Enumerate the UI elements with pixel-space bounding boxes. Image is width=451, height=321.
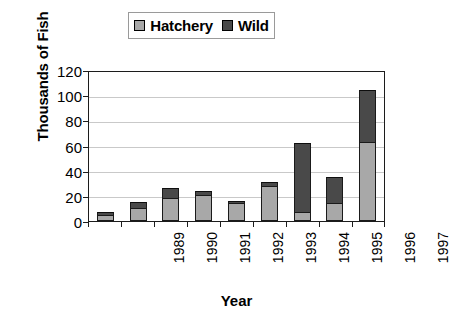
legend-swatch-hatchery: [134, 20, 145, 31]
x-tick-mark: [187, 222, 188, 227]
y-axis-ticks: 120 100 80 60 40 20 0: [0, 0, 82, 321]
bar-segment-wild: [359, 90, 376, 142]
bar-segment-wild: [294, 143, 311, 212]
x-tick-label: 1991: [238, 232, 252, 292]
bar-segment-hatchery: [326, 203, 343, 221]
x-tick-label: 1995: [370, 232, 384, 292]
bar-slot: [286, 72, 319, 221]
y-tick-label: 20: [38, 190, 82, 205]
stacked-bar[interactable]: [326, 177, 343, 221]
y-tick-label: 100: [38, 89, 82, 104]
bar-segment-wild: [162, 188, 179, 198]
stacked-bar[interactable]: [97, 212, 114, 221]
stacked-bar[interactable]: [228, 201, 245, 221]
bar-segment-hatchery: [294, 212, 311, 221]
bar-segment-wild: [326, 177, 343, 203]
bar-slot: [187, 72, 220, 221]
x-tick-mark: [253, 222, 254, 227]
x-tick-mark: [121, 222, 122, 227]
bar-group: [89, 72, 384, 221]
bar-segment-hatchery: [359, 142, 376, 221]
y-tick-label: 40: [38, 165, 82, 180]
bar-segment-hatchery: [97, 215, 114, 221]
bar-slot: [253, 72, 286, 221]
stacked-bar[interactable]: [195, 191, 212, 221]
x-axis-title: Year: [88, 292, 385, 309]
stacked-bar[interactable]: [130, 202, 147, 221]
legend-entry-wild: Wild: [222, 18, 269, 33]
x-tick-label: 1996: [403, 232, 417, 292]
bar-slot: [318, 72, 351, 221]
bar-slot: [89, 72, 122, 221]
legend-label-wild: Wild: [238, 18, 269, 33]
bar-segment-hatchery: [195, 195, 212, 221]
plot-area: [88, 71, 385, 222]
bar-segment-hatchery: [261, 186, 278, 221]
x-tick-label: 1993: [304, 232, 318, 292]
legend-entry-hatchery: Hatchery: [134, 18, 213, 33]
x-tick-label: 1992: [271, 232, 285, 292]
bar-slot: [122, 72, 155, 221]
y-tick-label: 60: [38, 140, 82, 155]
x-tick-mark: [319, 222, 320, 227]
legend-label-hatchery: Hatchery: [150, 18, 213, 33]
x-tick-label: 1990: [205, 232, 219, 292]
x-tick-mark: [286, 222, 287, 227]
chart-legend: Hatchery Wild: [128, 12, 275, 39]
bar-segment-hatchery: [228, 203, 245, 221]
x-tick-label: 1994: [337, 232, 351, 292]
x-tick-mark: [154, 222, 155, 227]
stacked-bar[interactable]: [261, 182, 278, 221]
x-tick-mark: [352, 222, 353, 227]
x-tick-mark: [384, 222, 385, 227]
bar-segment-hatchery: [130, 208, 147, 221]
x-tick-mark: [88, 222, 89, 227]
stacked-bar[interactable]: [162, 188, 179, 221]
bar-slot: [351, 72, 384, 221]
x-tick-label: 1989: [172, 232, 186, 292]
stacked-bar[interactable]: [294, 143, 311, 221]
x-tick-mark: [220, 222, 221, 227]
y-tick-label: 0: [38, 215, 82, 230]
bar-slot: [220, 72, 253, 221]
stacked-bar[interactable]: [359, 90, 376, 221]
x-tick-label: 1997: [436, 232, 450, 292]
y-tick-label: 80: [38, 114, 82, 129]
legend-swatch-wild: [222, 20, 233, 31]
bar-segment-hatchery: [162, 198, 179, 221]
y-tick-label: 120: [38, 64, 82, 79]
bar-slot: [155, 72, 188, 221]
